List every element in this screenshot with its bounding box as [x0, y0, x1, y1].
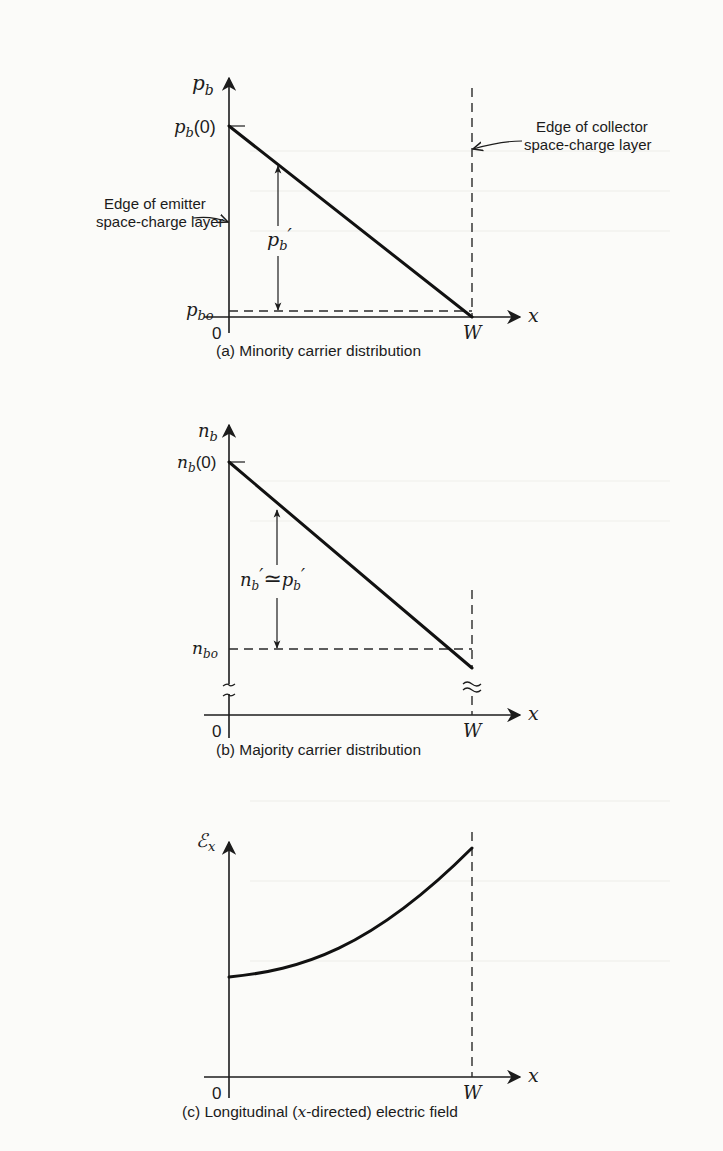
panel-a-emitter-annotation-line2: space-charge layer — [96, 213, 224, 230]
panel-c-field-curve — [229, 848, 472, 977]
panel-a-excess-label: pb′ — [267, 224, 293, 253]
panel-b-w-break-icon — [463, 682, 481, 692]
figure-canvas: pb pb(0) pbo pb′ 0 W x Edge of emitter s… — [0, 0, 723, 1151]
panel-a-w-label: W — [463, 322, 483, 343]
panel-b-majority-carrier: nb nb(0) nbo nb′≃pb′ 0 W x (b) Majority … — [177, 420, 539, 758]
panel-b-excess-label: nb′≃pb′ — [240, 565, 305, 593]
panel-a-y-axis-label: pb — [192, 71, 214, 98]
panel-a-collector-pointer-arrow — [473, 141, 522, 149]
panel-c-caption: (c) Longitudinal (x-directed) electric f… — [182, 1103, 458, 1121]
panel-b-nbo-label: nbo — [192, 638, 218, 661]
panel-c-origin-label: 0 — [212, 1084, 221, 1103]
panel-a-collector-annotation-line2: space-charge layer — [524, 136, 652, 153]
panel-b-x-axis-label: x — [528, 702, 539, 724]
panel-a-x-axis-label: x — [528, 304, 539, 326]
panel-c-x-axis-label: x — [528, 1064, 539, 1086]
panel-c-w-label: W — [463, 1082, 483, 1103]
panel-a-pb0-label: pb(0) — [174, 116, 216, 140]
panel-b-w-label: W — [463, 720, 483, 741]
panel-b-nb0-label: nb(0) — [177, 452, 216, 475]
panel-b-origin-label: 0 — [212, 722, 221, 741]
panel-a-minority-carrier: pb pb(0) pbo pb′ 0 W x Edge of emitter s… — [96, 71, 652, 359]
panel-a-minority-carrier-line — [229, 126, 472, 317]
page-bleed-through — [250, 150, 670, 962]
panel-a-origin-label: 0 — [212, 324, 221, 343]
panel-b-y-axis-label: nb — [198, 420, 218, 444]
panel-a-pbo-label: pbo — [186, 299, 214, 323]
panel-a-caption: (a) Minority carrier distribution — [216, 342, 421, 359]
panel-c-electric-field: ℰx 0 W x (c) Longitudinal (x-directed) e… — [182, 829, 539, 1121]
panel-a-emitter-annotation-line1: Edge of emitter — [104, 195, 206, 212]
panel-b-caption: (b) Majority carrier distribution — [216, 741, 421, 758]
panel-b-majority-carrier-line — [229, 462, 472, 668]
panel-a-collector-annotation-line1: Edge of collector — [536, 118, 648, 135]
panel-c-y-axis-label: ℰx — [196, 829, 216, 854]
